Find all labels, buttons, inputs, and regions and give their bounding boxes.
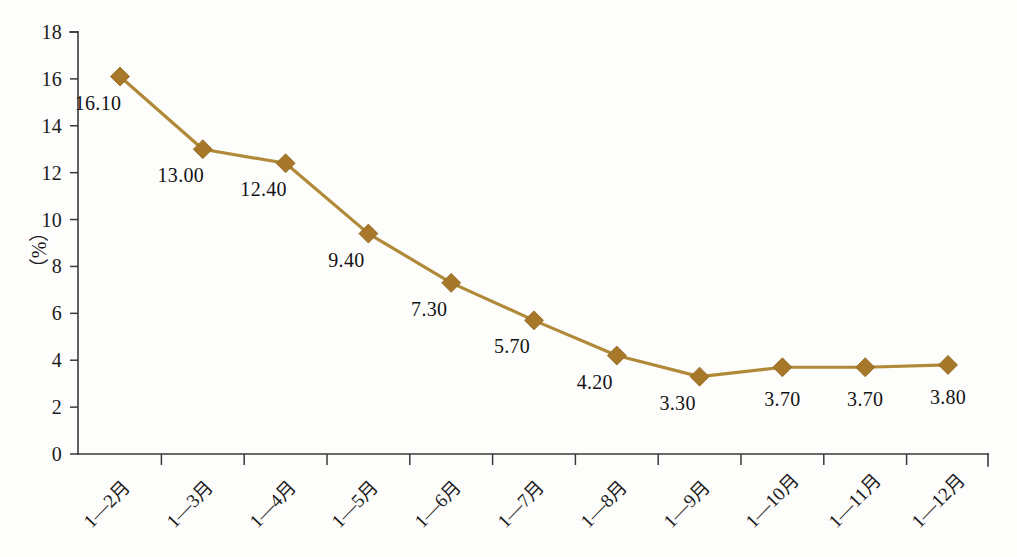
- y-axis-tick-label: 12: [22, 163, 62, 183]
- y-axis-tick-label: 4: [22, 350, 62, 370]
- data-point-marker: [607, 346, 626, 365]
- data-point-marker: [939, 355, 958, 374]
- chart-plot-area: [0, 0, 1017, 557]
- line-chart: （%） 024681012141618 1—2月1—3月1—4月1—5月1—6月…: [0, 0, 1017, 557]
- data-point-marker: [690, 367, 709, 386]
- y-axis-tick-label: 2: [22, 397, 62, 417]
- y-axis-tick-label: 10: [22, 210, 62, 230]
- y-axis-tick-label: 18: [22, 22, 62, 42]
- data-point-value-label: 9.40: [318, 250, 374, 270]
- y-axis-tick-label: 6: [22, 303, 62, 323]
- data-point-value-label: 16.10: [70, 93, 126, 113]
- y-axis-tick-label: 0: [22, 444, 62, 464]
- data-point-marker: [773, 358, 792, 377]
- y-axis-tick-label: 14: [22, 116, 62, 136]
- x-axis-ticks: [161, 454, 906, 465]
- data-point-value-label: 3.30: [650, 393, 706, 413]
- data-point-value-label: 7.30: [401, 299, 457, 319]
- data-point-value-label: 3.80: [920, 387, 976, 407]
- data-point-value-label: 12.40: [236, 179, 292, 199]
- data-point-marker: [442, 273, 461, 292]
- y-axis-tick-label: 8: [22, 256, 62, 276]
- data-point-value-label: 3.70: [754, 389, 810, 409]
- data-point-marker: [856, 358, 875, 377]
- data-point-value-label: 3.70: [837, 389, 893, 409]
- data-point-value-label: 5.70: [484, 336, 540, 356]
- data-point-value-label: 13.00: [153, 165, 209, 185]
- data-point-marker: [525, 311, 544, 330]
- series-line-path: [120, 77, 948, 377]
- data-point-value-label: 4.20: [567, 372, 623, 392]
- y-axis-tick-label: 16: [22, 69, 62, 89]
